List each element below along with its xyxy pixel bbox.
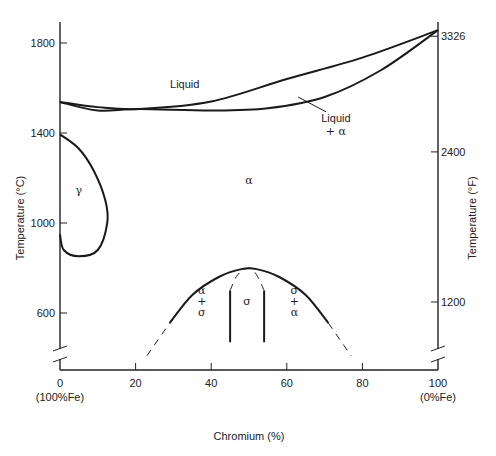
phase-label: Liquid [321,112,350,124]
phase-label: α [291,306,299,319]
phase-label: σ [198,306,206,319]
x-tick-label: 40 [205,377,217,389]
sigma-solvus-extrapolated-left-line [147,323,170,356]
phase-label: γ [76,184,83,197]
sigma-solvus-extrapolated-right-line [328,323,351,356]
phase-label: + α [326,125,347,138]
phase-label: σ [243,295,251,308]
phase-labels: LiquidLiquid+ ααγα+σσσ+α [76,78,351,319]
x-tick-label: 0 [57,377,63,389]
x-tick-label: 80 [356,377,368,389]
y-tick-label-left: 1000 [31,217,55,229]
axes: 0(100%Fe)20406080100(0%Fe)18001400100060… [31,22,466,403]
fe-cr-phase-diagram: 0(100%Fe)20406080100(0%Fe)18001400100060… [0,0,496,456]
x-tick-sublabel: (0%Fe) [420,391,456,403]
y-tick-label-right: 1200 [441,296,465,308]
y-tick-label-right: 2400 [441,146,465,158]
x-tick-sublabel: (100%Fe) [36,391,84,403]
y-axis-label-right: Temperature (°F) [466,176,478,259]
y-tick-label-left: 600 [37,307,55,319]
y-tick-label-right: 3326 [441,30,465,42]
phase-label: Liquid [170,78,199,90]
x-tick-label: 20 [129,377,141,389]
x-axis-label: Chromium (%) [214,430,285,442]
solidus-line [60,30,438,111]
gamma-loop-line [60,134,108,256]
leader-line [298,97,326,112]
x-tick-label: 100 [429,377,447,389]
y-axis-label-left: Temperature (°C) [14,176,26,260]
y-tick-label-left: 1800 [31,37,55,49]
x-tick-label: 60 [281,377,293,389]
y-tick-label-left: 1400 [31,127,55,139]
phase-label: α [245,174,253,187]
